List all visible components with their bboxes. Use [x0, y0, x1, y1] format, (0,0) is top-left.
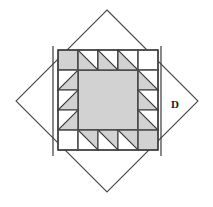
corner-square-patch — [58, 50, 78, 70]
sawtooth-quilt-block — [58, 50, 158, 150]
center-square — [78, 70, 138, 130]
figure-container: D — [0, 0, 213, 207]
dimension-label-d: D — [171, 98, 179, 110]
corner-square-patch — [138, 130, 158, 150]
quilt-diamond-diagram: D — [0, 0, 213, 207]
corner-empty-patch — [58, 130, 78, 150]
corner-empty-patch — [138, 50, 158, 70]
